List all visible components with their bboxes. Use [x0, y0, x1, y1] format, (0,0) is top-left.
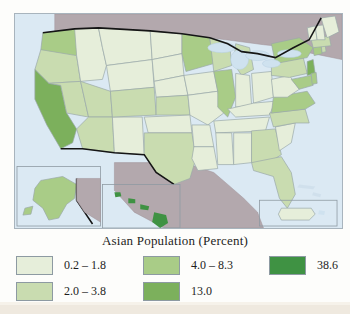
legend-item: 0.2 – 1.8: [16, 255, 106, 275]
legend-label-5: 38.6: [317, 258, 338, 273]
state-MT: [98, 28, 152, 66]
legend-swatch-3: [143, 256, 180, 275]
legend-title: Asian Population (Percent): [0, 233, 350, 249]
state-DE: [311, 72, 317, 84]
legend-label-3: 4.0 – 8.3: [191, 258, 233, 273]
legend-swatch-2: [16, 282, 53, 301]
map-graphic: .st{stroke:#9aa8a8;stroke-width:.7;} .na…: [15, 14, 342, 228]
state-NM: [112, 117, 144, 155]
legend-column-3: 38.6: [269, 255, 338, 281]
state-KS: [156, 95, 190, 115]
legend-item: 13.0: [143, 281, 233, 301]
legend-column-1: 0.2 – 1.8 2.0 – 3.8: [16, 255, 106, 307]
state-MS: [216, 133, 234, 165]
state-OK: [144, 115, 192, 133]
legend-swatch-5: [269, 256, 306, 275]
choropleth-map: .st{stroke:#9aa8a8;stroke-width:.7;} .na…: [14, 13, 343, 229]
legend-label-2: 2.0 – 3.8: [64, 284, 106, 299]
map-legend: Asian Population (Percent) 0.2 – 1.8 2.0…: [0, 231, 350, 305]
legend-swatch-4: [143, 282, 180, 301]
page-background: .st{stroke:#9aa8a8;stroke-width:.7;} .na…: [0, 0, 350, 314]
state-OH: [252, 71, 274, 103]
legend-item: 38.6: [269, 255, 338, 275]
legend-column-2: 4.0 – 8.3 13.0: [143, 255, 233, 307]
legend-item: 4.0 – 8.3: [143, 255, 233, 275]
state-IN: [236, 73, 252, 107]
scan-edge: [0, 305, 350, 314]
state-LA: [192, 147, 218, 171]
legend-label-1: 0.2 – 1.8: [64, 258, 106, 273]
territory-PR: [278, 208, 315, 220]
state-AR: [192, 125, 214, 147]
legend-label-4: 13.0: [191, 284, 212, 299]
legend-item: 2.0 – 3.8: [16, 281, 106, 301]
state-AL: [234, 133, 252, 165]
state-WY: [106, 60, 154, 92]
legend-swatch-1: [16, 256, 53, 275]
state-CO: [110, 87, 156, 117]
